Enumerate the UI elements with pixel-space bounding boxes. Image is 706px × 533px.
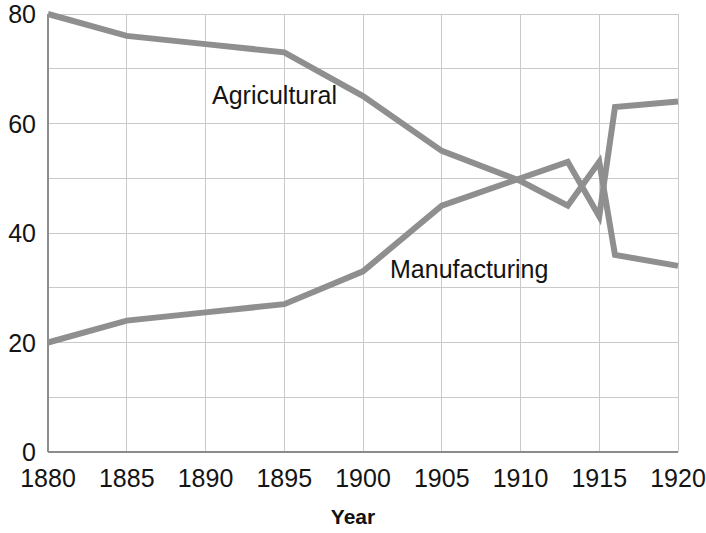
series-lines — [48, 14, 678, 452]
x-tick-label: 1895 — [244, 466, 324, 491]
x-tick-label: 1905 — [402, 466, 482, 491]
series-label-agricultural: Agricultural — [212, 83, 337, 108]
series-line-manufacturing — [48, 102, 678, 343]
series-label-manufacturing: Manufacturing — [390, 257, 548, 282]
y-tick-label: 0 — [22, 440, 36, 465]
y-tick-label: 20 — [8, 331, 36, 356]
x-tick-label: 1910 — [481, 466, 561, 491]
x-axis-tick-labels: 188018851890189519001905191019151920 — [0, 466, 706, 500]
y-tick-label: 60 — [8, 112, 36, 137]
plot-area — [48, 14, 678, 452]
x-tick-label: 1900 — [323, 466, 403, 491]
y-tick-label: 80 — [8, 2, 36, 27]
y-axis-tick-labels: 020406080 — [0, 0, 36, 533]
x-tick-label: 1890 — [166, 466, 246, 491]
series-line-agricultural — [48, 14, 678, 266]
x-tick-label: 1915 — [559, 466, 639, 491]
x-tick-label: 1885 — [87, 466, 167, 491]
x-tick-label: 1880 — [8, 466, 88, 491]
x-tick-label: 1920 — [638, 466, 706, 491]
x-axis-title: Year — [0, 505, 706, 529]
line-chart: 020406080 188018851890189519001905191019… — [0, 0, 706, 533]
y-tick-label: 40 — [8, 221, 36, 246]
